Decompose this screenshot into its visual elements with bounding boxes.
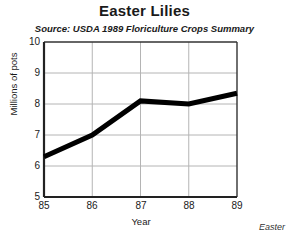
corner-annotation: Easter [259, 222, 285, 233]
plot-area [0, 0, 289, 240]
chart-figure: Easter Lilies Source: USDA 1989 Floricul… [0, 0, 289, 240]
